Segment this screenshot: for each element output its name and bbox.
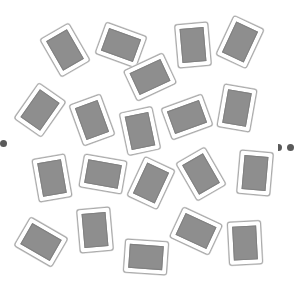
card-13[interactable]	[126, 156, 175, 210]
card-back-pattern	[182, 153, 220, 194]
card-back-pattern	[130, 59, 171, 95]
card-8[interactable]	[119, 106, 161, 156]
card-back-pattern	[180, 27, 207, 63]
card-back-pattern	[101, 28, 141, 62]
card-4[interactable]	[215, 15, 264, 69]
card-back-pattern	[82, 212, 109, 248]
card-back-pattern	[176, 213, 217, 249]
card-20[interactable]	[227, 220, 263, 266]
card-back-pattern	[75, 100, 109, 140]
card-17[interactable]	[76, 207, 114, 254]
card-3[interactable]	[174, 22, 212, 69]
right-marker-dot	[287, 144, 294, 151]
card-16[interactable]	[13, 216, 68, 267]
card-back-pattern	[46, 29, 84, 70]
card-2[interactable]	[95, 22, 148, 69]
card-7[interactable]	[69, 94, 116, 147]
card-back-pattern	[128, 244, 164, 270]
card-back-pattern	[125, 112, 156, 150]
card-back-pattern	[222, 89, 252, 127]
card-back-pattern	[20, 89, 59, 131]
card-back-pattern	[242, 155, 269, 191]
card-back-pattern	[84, 159, 122, 189]
card-back-pattern	[37, 159, 67, 197]
card-1[interactable]	[39, 22, 90, 77]
card-11[interactable]	[31, 153, 72, 202]
card-19[interactable]	[169, 206, 223, 255]
card-table	[0, 0, 294, 285]
card-12[interactable]	[78, 153, 127, 194]
card-18[interactable]	[123, 239, 169, 276]
card-9[interactable]	[161, 94, 214, 141]
card-back-pattern	[133, 163, 169, 204]
card-6[interactable]	[13, 82, 66, 138]
card-back-pattern	[167, 100, 207, 134]
card-10[interactable]	[216, 83, 257, 132]
card-back-pattern	[20, 223, 61, 261]
card-14[interactable]	[175, 146, 226, 201]
left-marker-dot	[0, 140, 7, 147]
card-back-pattern	[222, 22, 258, 63]
card-back-pattern	[232, 225, 258, 260]
card-15[interactable]	[236, 150, 274, 197]
right-marker-half-dot	[278, 144, 282, 151]
